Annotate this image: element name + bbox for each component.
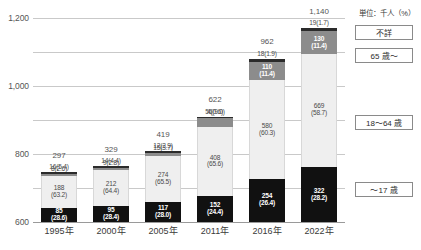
bar-2016年[interactable]: 254(26.4)580(60.3)110(11.4)18(1.9)962	[249, 59, 285, 223]
segment-65 歳～[interactable]: 110(11.4)	[249, 62, 285, 81]
segment-不詳[interactable]: 18(1.9)	[249, 59, 285, 62]
legend-item-age17[interactable]: ～17 歳	[355, 182, 413, 197]
segment-value-label: 4(0.6)	[207, 109, 223, 116]
segment-不詳[interactable]: 4(0.6)	[197, 117, 233, 118]
bar-total-label: 419	[156, 130, 169, 139]
y-axis-tick: 800	[15, 149, 29, 159]
segment-18～64 歳[interactable]: 408(65.6)	[197, 127, 233, 196]
segment-value-label: 19(1.7)	[309, 20, 329, 27]
segment-value-label: 274(65.5)	[155, 172, 171, 186]
segment-65 歳～[interactable]: 56(9.0)	[197, 117, 233, 127]
legend-item-unknown[interactable]: 不詳	[355, 25, 413, 40]
bar-total-label: 297	[52, 151, 65, 160]
x-axis-label-2016年: 2016年	[237, 224, 297, 237]
y-axis-tick: 600	[15, 217, 29, 227]
unit-note: 単位：千人（%）	[359, 7, 415, 18]
segment-value-label: 669(58.7)	[311, 103, 327, 117]
segment-65 歳～[interactable]: 15(3.7)	[145, 153, 181, 156]
segment-～17 歳[interactable]: 117(28.0)	[145, 202, 181, 222]
segment-value-label: 188(63.2)	[51, 185, 67, 199]
segment-～17 歳[interactable]: 95(28.4)	[93, 206, 129, 222]
x-axis-label-2022年: 2022年	[289, 224, 349, 237]
segment-65 歳～[interactable]: 9(2.8)	[93, 168, 129, 170]
segment-不詳[interactable]: 14(4.4)	[93, 166, 129, 168]
bar-2022年[interactable]: 322(28.2)669(58.7)130(11.4)19(1.7)1,140	[301, 28, 337, 222]
y-axis-tick: 1,000	[8, 81, 29, 91]
gridline-0: 0	[33, 222, 345, 223]
bar-2011年[interactable]: 152(24.4)408(65.6)56(9.0)4(0.6)622	[197, 117, 233, 222]
legend-item-age65[interactable]: 65 歳～	[355, 48, 413, 63]
x-axis-label-2011年: 2011年	[185, 224, 245, 237]
segment-value-label: 212(64.4)	[103, 181, 119, 195]
segment-～17 歳[interactable]: 322(28.2)	[301, 167, 337, 222]
segment-～17 歳[interactable]: 85(28.6)	[41, 208, 77, 222]
segment-value-label: 110(11.4)	[259, 64, 275, 78]
bar-total-label: 1,140	[309, 7, 329, 16]
segment-value-label: 117(28.0)	[155, 205, 171, 219]
bar-2005年[interactable]: 117(28.0)274(65.5)15(3.7)12(2.9)419	[145, 151, 181, 222]
x-axis-labels: 1995年2000年2005年2011年2016年2022年	[33, 224, 345, 244]
segment-18～64 歳[interactable]: 188(63.2)	[41, 176, 77, 208]
segment-不詳[interactable]: 12(2.9)	[145, 151, 181, 153]
bar-total-label: 962	[260, 37, 273, 46]
segment-18～64 歳[interactable]: 669(58.7)	[301, 54, 337, 168]
bar-2000年[interactable]: 95(28.4)212(64.4)9(2.8)14(4.4)329	[93, 166, 129, 222]
bar-total-label: 622	[208, 95, 221, 104]
bar-total-label: 329	[104, 145, 117, 154]
segment-65 歳～[interactable]: 130(11.4)	[301, 31, 337, 53]
x-axis-label-2005年: 2005年	[133, 224, 193, 237]
segment-不詳[interactable]: 19(1.7)	[301, 28, 337, 31]
segment-value-label: 85(28.6)	[51, 208, 67, 222]
segment-18～64 歳[interactable]: 274(65.5)	[145, 156, 181, 203]
x-axis-label-2000年: 2000年	[81, 224, 141, 237]
segment-value-label: 14(4.4)	[101, 158, 121, 165]
bar-1995年[interactable]: 85(28.6)188(63.2)8(2.6)16(5.4)297	[41, 172, 77, 222]
segment-value-label: 254(26.4)	[259, 193, 275, 207]
segment-～17 歳[interactable]: 152(24.4)	[197, 196, 233, 222]
segment-18～64 歳[interactable]: 212(64.4)	[93, 170, 129, 206]
segment-value-label: 580(60.3)	[259, 123, 275, 137]
segment-value-label: 152(24.4)	[207, 202, 223, 216]
plot-area: 02004006008001,0001,200 85(28.6)188(63.2…	[33, 18, 345, 222]
segment-value-label: 12(2.9)	[153, 143, 173, 150]
segment-value-label: 18(1.9)	[257, 51, 277, 58]
y-axis-tick: 1,200	[8, 13, 29, 23]
x-axis-label-1995年: 1995年	[29, 224, 89, 237]
segment-value-label: 95(28.4)	[103, 207, 119, 221]
segment-value-label: 130(11.4)	[311, 36, 327, 50]
bar-group: 85(28.6)188(63.2)8(2.6)16(5.4)29795(28.4…	[33, 18, 345, 222]
segment-value-label: 408(65.6)	[207, 155, 223, 169]
segment-～17 歳[interactable]: 254(26.4)	[249, 179, 285, 222]
segment-value-label: 322(28.2)	[311, 188, 327, 202]
segment-18～64 歳[interactable]: 580(60.3)	[249, 80, 285, 179]
chart-container: 単位：千人（%） 02004006008001,0001,200 85(28.6…	[0, 0, 421, 250]
legend-item-age1864[interactable]: 18～64 歳	[355, 115, 413, 130]
segment-不詳[interactable]: 16(5.4)	[41, 172, 77, 175]
segment-65 歳～[interactable]: 8(2.6)	[41, 174, 77, 175]
segment-value-label: 16(5.4)	[49, 164, 69, 171]
